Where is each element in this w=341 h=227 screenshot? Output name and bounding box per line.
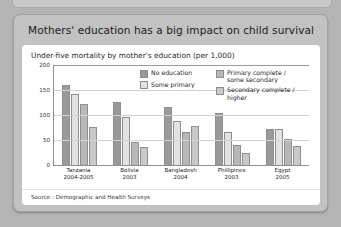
legend-label: No education [151, 69, 192, 76]
gridline [54, 65, 309, 66]
page-title: Mothers' education has a big impact on c… [28, 24, 318, 36]
bar [140, 147, 148, 166]
bar [191, 126, 199, 165]
bar [275, 129, 283, 165]
x-axis-label: Egypt2005 [258, 167, 308, 185]
legend-column-right: Primary complete / some secondarySeconda… [216, 69, 295, 104]
bar [224, 132, 232, 166]
x-axis-label: Bolivia2003 [105, 167, 155, 185]
figure-panel: Mothers' education has a big impact on c… [13, 14, 328, 212]
y-axis-tick: 100 [39, 112, 50, 118]
bar [131, 142, 139, 166]
legend-item: Primary complete / some secondary [216, 69, 295, 83]
y-axis-tick: 150 [39, 87, 50, 93]
y-axis-tick: 200 [39, 62, 50, 68]
source-divider [22, 189, 320, 190]
legend-label: Secondary complete / higher [227, 86, 295, 100]
legend-item: No education [140, 69, 195, 78]
source-note: Source : Demographic and Health Surveys [31, 194, 150, 200]
chart-legend: No educationSome primary Primary complet… [140, 69, 316, 105]
x-axis-label: Tanzania2004-2005 [54, 167, 104, 185]
bar [242, 153, 250, 166]
legend-item: Secondary complete / higher [216, 86, 295, 100]
chart-subtitle: Under-five mortality by mother's educati… [31, 51, 235, 60]
bar [215, 113, 223, 165]
background-panel-sliver [12, 0, 332, 8]
chart-card: Under-five mortality by mother's educati… [22, 45, 320, 205]
legend-swatch [140, 81, 148, 89]
screenshot-root: Mothers' education has a big impact on c… [0, 0, 341, 227]
legend-column-left: No educationSome primary [140, 69, 195, 92]
gridline [54, 115, 309, 116]
gridline [54, 140, 309, 141]
x-axis: Tanzania2004-2005Bolivia2003Bangladesh20… [53, 167, 308, 185]
legend-item: Some primary [140, 81, 195, 90]
legend-label: Primary complete / some secondary [227, 69, 286, 83]
y-axis-tick: 50 [43, 137, 50, 143]
x-axis-label: Bangladesh2004 [156, 167, 206, 185]
bar [233, 145, 241, 166]
y-axis: 050100150200 [22, 65, 52, 169]
bar [284, 139, 292, 166]
x-axis-label: Phillipines2003 [207, 167, 257, 185]
bar [80, 104, 88, 165]
y-axis-tick: 0 [46, 162, 50, 168]
bar [182, 132, 190, 166]
bar [62, 85, 70, 166]
legend-swatch [216, 87, 224, 95]
legend-label: Some primary [151, 81, 195, 88]
bar [71, 94, 79, 166]
legend-swatch [216, 70, 224, 78]
bar [173, 121, 181, 165]
bar [293, 146, 301, 165]
legend-swatch [140, 70, 148, 78]
bar [89, 127, 97, 165]
bar [266, 129, 274, 165]
bar [113, 102, 121, 166]
